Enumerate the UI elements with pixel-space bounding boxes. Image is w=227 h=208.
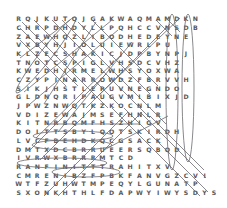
- grid-cell: H: [51, 67, 60, 76]
- grid-cell: L: [14, 137, 23, 146]
- grid-cell: R: [79, 145, 88, 154]
- grid-cell: W: [163, 189, 172, 198]
- grid-cell: W: [60, 111, 69, 120]
- grid-cell: B: [70, 128, 79, 137]
- grid-row: LVCFBEHDKQCGSACK: [14, 137, 227, 146]
- grid-cell: I: [14, 154, 23, 163]
- grid-cell: T: [33, 145, 42, 154]
- grid-cell: B: [144, 50, 153, 59]
- grid-cell: P: [107, 24, 116, 33]
- grid-cell: A: [98, 15, 107, 24]
- grid-cell: V: [172, 76, 181, 85]
- grid-cell: R: [79, 76, 88, 85]
- grid-cell: R: [88, 145, 97, 154]
- grid-cell: E: [88, 85, 97, 94]
- grid-cell: E: [116, 41, 125, 50]
- grid-cell: X: [42, 145, 51, 154]
- grid-cell: E: [135, 32, 144, 41]
- grid-cell: X: [23, 41, 32, 50]
- grid-cell: D: [163, 85, 172, 94]
- grid-cell: V: [163, 76, 172, 85]
- grid-cell: R: [33, 24, 42, 33]
- grid-cell: K: [116, 171, 125, 180]
- grid-cell: D: [116, 76, 125, 85]
- grid-cell: K: [107, 15, 116, 24]
- grid-cell: O: [107, 32, 116, 41]
- grid-cell: L: [88, 189, 97, 198]
- grid-row: KWEDHIRMELWHSYOXWA: [14, 67, 227, 76]
- grid-cell: V: [107, 58, 116, 67]
- grid-cell: M: [79, 119, 88, 128]
- grid-cell: M: [23, 171, 32, 180]
- grid-cell: W: [23, 67, 32, 76]
- grid-cell: C: [107, 137, 116, 146]
- grid-cell: J: [60, 41, 69, 50]
- grid-cell: X: [23, 189, 32, 198]
- grid-cell: U: [153, 180, 162, 189]
- grid-cell: P: [42, 24, 51, 33]
- grid-cell: E: [181, 32, 190, 41]
- grid-cell: D: [14, 128, 23, 137]
- grid-cell: W: [33, 102, 42, 111]
- grid-cell: G: [107, 93, 116, 102]
- grid-row: SIKJHSTLEPUVNEGNDO: [14, 85, 227, 94]
- grid-cell: R: [70, 67, 79, 76]
- grid-row: WTFZUHWTMPEQYLGUNATP: [14, 180, 227, 189]
- grid-row: IVRWXBRRRMTCD: [14, 154, 227, 163]
- grid-cell: P: [135, 50, 144, 59]
- grid-cell: L: [135, 180, 144, 189]
- grid-cell: T: [107, 154, 116, 163]
- grid-cell: H: [116, 67, 125, 76]
- grid-cell: Z: [126, 76, 135, 85]
- grid-cell: C: [14, 76, 23, 85]
- grid-cell: P: [70, 58, 79, 67]
- grid-row: CMRENIBZFPBKFANVGZCVI: [14, 171, 227, 180]
- grid-cell: W: [126, 41, 135, 50]
- grid-cell: Q: [116, 180, 125, 189]
- grid-cell: U: [98, 41, 107, 50]
- grid-cell: I: [135, 163, 144, 172]
- grid-cell: D: [116, 32, 125, 41]
- grid-cell: B: [107, 171, 116, 180]
- grid-cell: G: [88, 58, 97, 67]
- grid-cell: V: [23, 137, 32, 146]
- grid-cell: T: [79, 163, 88, 172]
- grid-cell: K: [88, 137, 97, 146]
- grid-cell: Q: [51, 93, 60, 102]
- grid-cell: K: [14, 67, 23, 76]
- grid-cell: R: [79, 154, 88, 163]
- grid-cell: D: [126, 154, 135, 163]
- grid-cell: Z: [172, 171, 181, 180]
- grid-cell: E: [107, 145, 116, 154]
- grid-cell: S: [209, 189, 218, 198]
- grid-cell: U: [98, 145, 107, 154]
- grid-cell: C: [181, 171, 190, 180]
- grid-cell: D: [191, 189, 200, 198]
- grid-row: GLDNQRIPAUGVMIBIXJD: [14, 93, 227, 102]
- grid-cell: N: [126, 85, 135, 94]
- grid-cell: H: [98, 119, 107, 128]
- grid-cell: L: [144, 41, 153, 50]
- grid-cell: C: [33, 137, 42, 146]
- grid-cell: B: [70, 171, 79, 180]
- grid-cell: E: [33, 67, 42, 76]
- grid-cell: B: [60, 119, 69, 128]
- grid-cell: N: [144, 171, 153, 180]
- grid-cell: Y: [144, 189, 153, 198]
- grid-row: JPWZNWQTKZKOCNLM: [14, 102, 227, 111]
- grid-cell: H: [60, 180, 69, 189]
- grid-cell: D: [42, 67, 51, 76]
- grid-cell: O: [107, 128, 116, 137]
- grid-cell: C: [60, 145, 69, 154]
- grid-cell: B: [191, 24, 200, 33]
- grid-cell: R: [14, 15, 23, 24]
- grid-row: CHRPDHDYLLPQHCCVNSDB: [14, 24, 227, 33]
- grid-cell: F: [33, 180, 42, 189]
- grid-cell: H: [126, 163, 135, 172]
- grid-cell: B: [144, 93, 153, 102]
- grid-cell: N: [33, 163, 42, 172]
- grid-cell: J: [172, 93, 181, 102]
- grid-cell: V: [153, 171, 162, 180]
- grid-cell: L: [98, 67, 107, 76]
- grid-cell: E: [33, 32, 42, 41]
